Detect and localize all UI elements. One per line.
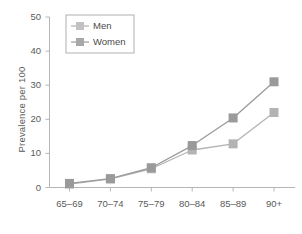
x-tick-label: 90+ xyxy=(251,198,297,209)
y-tick-label: 20 xyxy=(19,113,41,124)
x-tick-marks xyxy=(70,188,275,192)
series-line-men xyxy=(70,112,275,184)
x-tick-label: 65–69 xyxy=(47,198,93,209)
legend-men-marker xyxy=(76,22,84,30)
y-tick-label: 30 xyxy=(19,79,41,90)
data-point-women xyxy=(270,77,279,86)
y-tick-marks xyxy=(46,17,50,188)
legend-label-men: Men xyxy=(93,20,111,31)
data-point-men xyxy=(229,139,238,148)
x-tick-label: 75–79 xyxy=(128,198,174,209)
chart-figure: Prevalence per 100 01020304050 65–6970–7… xyxy=(0,0,302,234)
y-tick-label: 40 xyxy=(19,45,41,56)
x-tick-label: 85–89 xyxy=(210,198,256,209)
data-point-women xyxy=(65,179,74,188)
series-lines xyxy=(70,82,275,184)
data-point-women xyxy=(106,174,115,183)
y-tick-label: 0 xyxy=(19,182,41,193)
legend-label-women: Women xyxy=(93,36,126,47)
data-point-women xyxy=(188,141,197,150)
data-point-women xyxy=(147,163,156,172)
y-tick-label: 50 xyxy=(19,11,41,22)
x-tick-label: 80–84 xyxy=(169,198,215,209)
y-tick-label: 10 xyxy=(19,147,41,158)
legend-women-marker xyxy=(76,38,84,46)
data-point-women xyxy=(229,113,238,122)
y-axis-title: Prevalence per 100 xyxy=(16,40,27,180)
series-line-women xyxy=(70,82,275,184)
x-tick-label: 70–74 xyxy=(87,198,133,209)
data-point-men xyxy=(270,108,279,117)
